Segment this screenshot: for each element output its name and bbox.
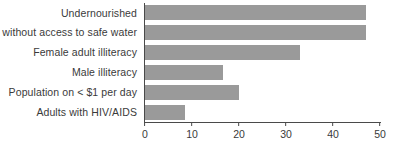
- bar-row: [145, 3, 380, 23]
- bar: [145, 25, 366, 40]
- tick-mark: [333, 123, 334, 126]
- bar-series: [145, 3, 380, 122]
- tick-mark: [380, 123, 381, 126]
- bar-row: [145, 23, 380, 43]
- plot-area: [145, 3, 380, 122]
- bar: [145, 65, 223, 80]
- tick-label: 50: [374, 129, 386, 140]
- tick-label: 0: [142, 129, 148, 140]
- tick-label: 40: [327, 129, 339, 140]
- bar: [145, 105, 185, 120]
- bar-row: [145, 43, 380, 63]
- x-tick: 20: [233, 123, 245, 140]
- x-tick: 50: [374, 123, 386, 140]
- bar: [145, 85, 239, 100]
- tick-label: 30: [280, 129, 292, 140]
- category-label: Female adult illiteracy: [0, 43, 141, 63]
- x-tick: 0: [142, 123, 148, 140]
- category-label: Undernourished: [0, 3, 141, 23]
- x-axis-ticks: 0 10 20 30 40 50: [145, 123, 380, 145]
- tick-mark: [145, 123, 146, 126]
- tick-label: 10: [186, 129, 198, 140]
- x-tick: 40: [327, 123, 339, 140]
- bar-chart: Undernourished % without access to safe …: [0, 0, 400, 148]
- tick-label: 20: [233, 129, 245, 140]
- tick-mark: [192, 123, 193, 126]
- bar-row: [145, 82, 380, 102]
- category-label: % without access to safe water: [0, 23, 141, 43]
- category-label: Adults with HIV/AIDS: [0, 102, 141, 122]
- category-label: Population on < $1 per day: [0, 82, 141, 102]
- tick-mark: [286, 123, 287, 126]
- bar-row: [145, 62, 380, 82]
- x-tick: 30: [280, 123, 292, 140]
- tick-mark: [239, 123, 240, 126]
- bar-row: [145, 102, 380, 122]
- bar: [145, 5, 366, 20]
- category-label: Male illiteracy: [0, 62, 141, 82]
- bar: [145, 45, 300, 60]
- category-axis-labels: Undernourished % without access to safe …: [0, 3, 141, 122]
- y-axis-line: [144, 3, 145, 122]
- x-tick: 10: [186, 123, 198, 140]
